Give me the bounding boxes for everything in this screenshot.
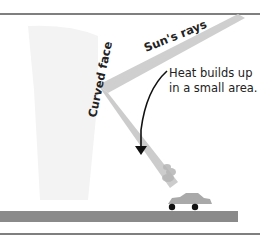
- car-wheel-front: [169, 204, 175, 210]
- car: [168, 193, 212, 210]
- reflected-sun-rays-beam: [98, 85, 178, 188]
- ground: [0, 211, 238, 222]
- sun-reflection-diagram: Curved face Sun's rays Heat builds up in…: [0, 0, 260, 237]
- car-wheel-rear: [192, 204, 198, 210]
- label-heat-line2: in a small area.: [169, 81, 257, 95]
- label-heat-line1: Heat builds up: [169, 66, 252, 80]
- pointer-arrow: [141, 71, 167, 148]
